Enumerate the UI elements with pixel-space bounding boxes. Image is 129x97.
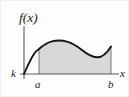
upper-limit-label-b: b — [108, 78, 114, 90]
figure-container: f(x) k a b x — [0, 0, 129, 97]
lower-limit-label-a: a — [35, 78, 41, 90]
function-label: f(x) — [19, 10, 38, 25]
origin-label-k: k — [11, 67, 17, 79]
area-under-curve-chart: f(x) k a b x — [1, 1, 129, 97]
x-axis-label: x — [119, 67, 125, 79]
